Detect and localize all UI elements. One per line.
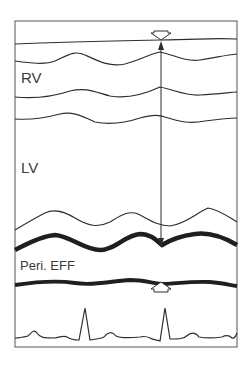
top-open-arrow-icon bbox=[151, 31, 171, 40]
measurement-arrowhead-up-icon bbox=[158, 41, 164, 50]
trace-anterior-chest-wall bbox=[15, 39, 237, 44]
label-rv: RV bbox=[21, 70, 42, 85]
label-pericardial-effusion: Peri. EFF bbox=[20, 259, 75, 272]
frame bbox=[15, 21, 237, 347]
trace-septum-rv-side bbox=[15, 87, 237, 98]
trace-pericardium bbox=[15, 280, 237, 286]
trace-lv-posterior-endocardium bbox=[15, 208, 237, 230]
trace-septum-lv-side bbox=[15, 113, 237, 123]
trace-lv-posterior-epicardium bbox=[15, 234, 237, 250]
label-lv: LV bbox=[21, 160, 38, 175]
trace-rv-anterior-wall bbox=[15, 52, 237, 65]
m-mode-echo-diagram bbox=[0, 0, 249, 365]
trace-ecg bbox=[15, 308, 237, 341]
